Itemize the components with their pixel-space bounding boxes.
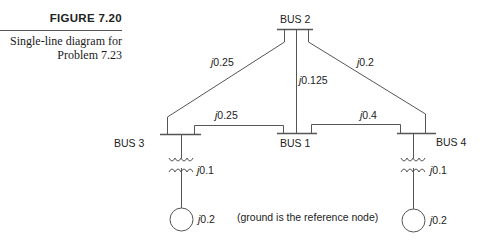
generator-bus3-impedance: j0.2 <box>196 213 215 225</box>
generator-bus4-icon <box>402 209 425 232</box>
impedance-bus2-bus1: j0.125 <box>297 74 328 86</box>
bus1-label: BUS 1 <box>280 137 311 149</box>
bus3-label: BUS 3 <box>114 137 145 149</box>
impedance-bus2-bus3: j0.25 <box>209 56 234 68</box>
transformer-bus3-primary-icon <box>169 158 193 161</box>
impedance-bus1-bus4: j0.4 <box>358 109 377 121</box>
transformer-bus3-impedance: j0.1 <box>195 164 214 176</box>
line-bus1-bus4 <box>312 125 401 134</box>
single-line-diagram: BUS 2 BUS 3 BUS 1 BUS 4 j0.25 j0.125 j0.… <box>0 0 488 247</box>
transformer-bus4-primary-icon <box>401 158 425 161</box>
impedance-bus2-bus4: j0.2 <box>355 56 374 68</box>
generator-bus3-icon <box>170 208 193 231</box>
generator-bus4-impedance: j0.2 <box>428 214 447 226</box>
line-bus3-bus1 <box>195 126 284 135</box>
bus4-label: BUS 4 <box>436 136 467 148</box>
reference-node-note: (ground is the reference node) <box>237 211 378 223</box>
transformer-bus4-impedance: j0.1 <box>428 164 447 176</box>
impedance-bus3-bus1: j0.25 <box>213 109 238 121</box>
bus2-label: BUS 2 <box>280 13 311 25</box>
